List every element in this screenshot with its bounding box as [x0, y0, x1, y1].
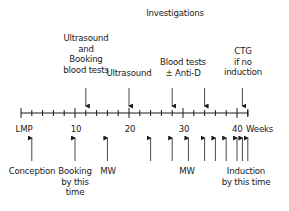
- axis-label-20: 20: [125, 124, 136, 135]
- visit-label-booking: Booking by this time: [58, 166, 91, 198]
- investigation-label-ultrasound: Ultrasound: [107, 68, 152, 79]
- axis-unit-label: Weeks: [246, 124, 273, 135]
- visit-label-induction: Induction by this time: [222, 166, 271, 187]
- timeline-axis: [21, 108, 248, 118]
- axis-label-lmp: LMP: [16, 124, 33, 135]
- investigation-arrows: [86, 88, 243, 106]
- visit-label-mw-2: MW: [179, 166, 195, 177]
- visit-arrows: [32, 138, 248, 161]
- visit-label-mw-1: MW: [100, 166, 116, 177]
- axis-label-30: 30: [179, 124, 190, 135]
- axis-label-10: 10: [71, 124, 82, 135]
- visit-label-conception: Conception: [9, 166, 56, 177]
- axis-label-40: 40: [232, 124, 243, 135]
- investigation-label-ultrasound-booking: Ultrasound and Booking blood tests: [63, 33, 108, 75]
- diagram-title: Investigations: [146, 8, 203, 19]
- investigation-label-blood-tests: Blood tests ± Anti-D: [160, 57, 206, 78]
- investigation-label-ctg: CTG if no induction: [224, 46, 262, 78]
